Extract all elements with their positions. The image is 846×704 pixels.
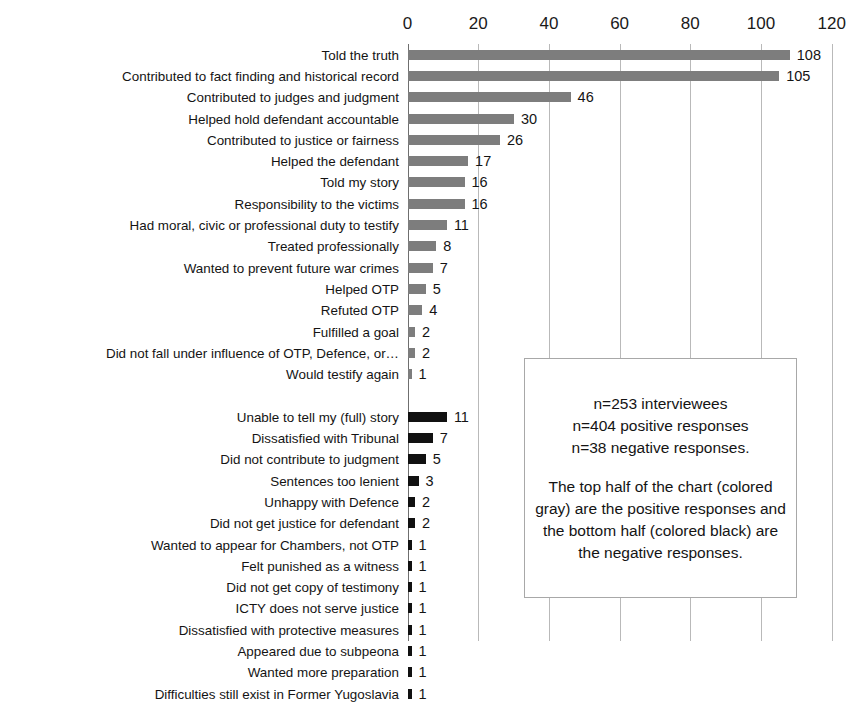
bar-value-label: 108 [797, 47, 821, 63]
x-tick-label-20: 20 [469, 14, 488, 34]
annotation-line-1: n=253 interviewees [594, 393, 728, 415]
bar [408, 540, 412, 550]
bar-value-label: 7 [440, 260, 448, 276]
bar-row: Told the truth108 [0, 44, 845, 65]
bar-value-label: 26 [507, 132, 523, 148]
annotation-box: n=253 interviewees n=404 positive respon… [524, 358, 797, 598]
bar [408, 327, 415, 337]
bar [408, 625, 412, 635]
bar-row: Contributed to justice or fairness26 [0, 129, 845, 150]
bar [408, 603, 412, 613]
category-label: Contributed to fact finding and historic… [122, 68, 399, 83]
bar-value-label: 2 [422, 324, 430, 340]
bar-value-label: 11 [454, 217, 469, 233]
category-label: Dissatisfied with Tribunal [252, 431, 399, 446]
bar-row: Difficulties still exist in Former Yugos… [0, 683, 845, 704]
bar-row: ICTY does not serve justice1 [0, 598, 845, 619]
bar [408, 199, 465, 209]
bar [408, 114, 514, 124]
x-tick-label-80: 80 [681, 14, 700, 34]
category-label: Did not contribute to judgment [220, 452, 399, 467]
category-label: Unhappy with Defence [264, 494, 399, 509]
bar [408, 582, 412, 592]
category-label: Did not get copy of testimony [226, 580, 399, 595]
bar-value-label: 5 [433, 281, 441, 297]
category-label: Contributed to judges and judgment [187, 90, 399, 105]
category-label: Difficulties still exist in Former Yugos… [155, 686, 399, 701]
category-label: Refuted OTP [321, 303, 399, 318]
bar [408, 646, 412, 656]
bar-value-label: 2 [422, 515, 430, 531]
bar [408, 689, 412, 699]
bar-value-label: 5 [433, 451, 441, 467]
bar [408, 348, 415, 358]
bar [408, 433, 433, 443]
bar-row: Helped OTP5 [0, 278, 845, 299]
x-tick-label-100: 100 [747, 14, 775, 34]
category-label: Helped hold defendant accountable [188, 111, 399, 126]
bar-value-label: 16 [472, 174, 488, 190]
bar [408, 518, 415, 528]
x-axis-tick-labels: 020406080100120 [0, 14, 845, 36]
x-tick-label-60: 60 [610, 14, 629, 34]
bar [408, 667, 412, 677]
category-label: Did not get justice for defendant [210, 516, 399, 531]
bar-value-label: 16 [472, 196, 488, 212]
category-label: Wanted more preparation [248, 665, 399, 680]
bar [408, 135, 500, 145]
x-tick-label-0: 0 [403, 14, 412, 34]
bar-value-label: 1 [419, 366, 427, 382]
bar [408, 305, 422, 315]
bar-value-label: 1 [419, 622, 427, 638]
bar [408, 71, 779, 81]
bar [408, 561, 412, 571]
bar [408, 156, 468, 166]
bar-row: Dissatisfied with protective measures1 [0, 619, 845, 640]
bar-row: Appeared due to subpeona1 [0, 640, 845, 661]
bar [408, 220, 447, 230]
category-label: Fulfilled a goal [313, 324, 399, 339]
bar [408, 241, 436, 251]
bar-value-label: 1 [419, 600, 427, 616]
bar [408, 92, 571, 102]
bar-value-label: 1 [419, 558, 427, 574]
bar-row: Refuted OTP4 [0, 300, 845, 321]
bar-row: Helped hold defendant accountable30 [0, 108, 845, 129]
bar-value-label: 17 [475, 153, 491, 169]
category-label: Would testify again [286, 367, 399, 382]
bar-row: Helped the defendant17 [0, 151, 845, 172]
bar-row: Fulfilled a goal2 [0, 321, 845, 342]
bar-value-label: 4 [429, 302, 437, 318]
category-label: Told my story [320, 175, 399, 190]
bar-value-label: 11 [454, 409, 469, 425]
category-label: Felt punished as a witness [241, 558, 399, 573]
bar-value-label: 46 [578, 89, 594, 105]
category-label: Appeared due to subpeona [237, 644, 399, 659]
bar-value-label: 8 [443, 238, 451, 254]
bar-value-label: 105 [786, 68, 810, 84]
category-label: Had moral, civic or professional duty to… [130, 218, 399, 233]
annotation-line-3: n=38 negative responses. [572, 437, 750, 459]
x-tick-label-40: 40 [539, 14, 558, 34]
bar-value-label: 2 [422, 494, 430, 510]
bar [408, 177, 465, 187]
bar-value-label: 30 [521, 111, 537, 127]
bar-value-label: 1 [419, 579, 427, 595]
bar-row: Contributed to judges and judgment46 [0, 87, 845, 108]
category-label: Wanted to appear for Chambers, not OTP [151, 537, 399, 552]
bar-value-label: 1 [419, 686, 427, 702]
bar-value-label: 7 [440, 430, 448, 446]
annotation-paragraph: The top half of the chart (colored gray)… [533, 476, 788, 564]
category-label: Helped the defendant [271, 154, 399, 169]
category-label: Did not fall under influence of OTP, Def… [106, 345, 399, 360]
bar-row: Treated professionally8 [0, 236, 845, 257]
bar [408, 497, 415, 507]
category-label: Unable to tell my (full) story [237, 409, 399, 424]
x-tick-label-120: 120 [818, 14, 846, 34]
annotation-line-2: n=404 positive responses [572, 415, 748, 437]
bar-row: Wanted to prevent future war crimes7 [0, 257, 845, 278]
category-label: Treated professionally [268, 239, 399, 254]
bar [408, 50, 790, 60]
bar-value-label: 3 [426, 473, 434, 489]
